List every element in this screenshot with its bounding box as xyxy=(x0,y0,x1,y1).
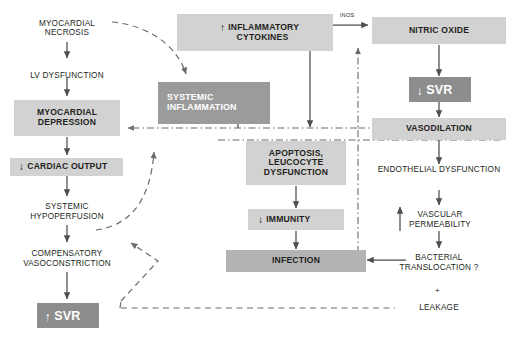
down-arrow-icon: ↓ xyxy=(417,88,426,95)
node-systemic-hypoperfusion: SYSTEMIC HYPOPERFUSION xyxy=(18,198,116,225)
node-label-line2: INFLAMMATION xyxy=(167,102,237,112)
node-vascular-permeability: VASCULAR PERMEABILITY xyxy=(396,206,484,233)
dashed-line-bottom xyxy=(120,301,395,308)
node-label-line2: TRANSLOCATION ? xyxy=(400,263,479,272)
node-label-line3: DYSFUNCTION xyxy=(264,167,328,177)
node-myocardial-necrosis: MYOCARDIAL NECROSIS xyxy=(20,14,114,42)
node-vasodilation: VASODILATION xyxy=(372,118,506,140)
down-arrow-icon: ↓ xyxy=(19,164,27,170)
node-label-line1: NITRIC OXIDE xyxy=(409,26,469,36)
node-label-line2: HYPOPERFUSION xyxy=(30,212,104,221)
up-arrow-icon: ↑ xyxy=(45,314,54,321)
node-label-line2: DEPRESSION xyxy=(38,117,96,127)
node-nitric-oxide: NITRIC OXIDE xyxy=(372,17,506,44)
flowchart-canvas: MYOCARDIAL NECROSIS LV DYSFUNCTION MYOCA… xyxy=(0,0,524,352)
node-label-line2: PERMEABILITY xyxy=(409,220,471,229)
node-label-line1: CARDIAC OUTPUT xyxy=(27,161,107,171)
node-inflammatory-cytokines: ↑INFLAMMATORY CYTOKINES xyxy=(177,14,333,51)
node-label-line1: INFECTION xyxy=(272,256,320,266)
down-arrow-icon: ↓ xyxy=(258,217,266,223)
node-endothelial-dysfunction: ENDOTHELIAL DYSFUNCTION xyxy=(370,164,508,176)
node-infection: INFECTION xyxy=(226,250,366,272)
plus-sign-label: + xyxy=(435,286,440,295)
node-label-line1: LV DYSFUNCTION xyxy=(30,71,104,80)
node-leakage: LEAKAGE xyxy=(409,302,469,314)
node-label-line2: VASOCONSTRICTION xyxy=(23,259,111,268)
edge-label-inos: iNOS xyxy=(340,12,355,18)
node-immunity: ↓IMMUNITY xyxy=(248,209,344,230)
node-label-line2: LEUCOCYTE xyxy=(269,157,324,167)
node-label-line1: SVR xyxy=(426,83,452,97)
node-myocardial-depression: MYOCARDIAL DEPRESSION xyxy=(14,100,120,136)
node-label-line1: SYSTEMIC xyxy=(167,92,214,102)
node-svr-decreased: ↓SVR xyxy=(409,77,471,102)
node-label-line1: INFLAMMATORY xyxy=(228,22,299,32)
node-compensatory-vasoconstriction: COMPENSATORY VASOCONSTRICTION xyxy=(11,245,123,272)
node-label-line1: COMPENSATORY xyxy=(31,249,102,258)
node-lv-dysfunction: LV DYSFUNCTION xyxy=(18,70,116,82)
node-cardiac-output: ↓CARDIAC OUTPUT xyxy=(10,158,123,176)
node-label-line2: NECROSIS xyxy=(45,28,89,37)
node-svr-increased: ↑SVR xyxy=(37,303,99,328)
node-label-line1: APOPTOSIS, xyxy=(269,148,323,158)
node-label-line1: BACTERIAL xyxy=(415,253,462,262)
node-label-line1: ENDOTHELIAL DYSFUNCTION xyxy=(378,165,501,174)
node-label-line1: VASODILATION xyxy=(406,124,472,134)
node-systemic-inflammation: SYSTEMIC INFLAMMATION xyxy=(158,82,270,124)
node-label-line2: CYTOKINES xyxy=(231,32,289,42)
node-label-line1: MYOCARDIAL xyxy=(39,19,95,28)
node-bacterial-translocation: BACTERIAL TRANSLOCATION ? xyxy=(386,249,492,276)
up-arrow-icon: ↑ xyxy=(220,25,228,31)
node-label-line1: IMMUNITY xyxy=(266,214,310,224)
node-apoptosis-leucocyte-dysfunction: APOPTOSIS, LEUCOCYTE DYSFUNCTION xyxy=(246,141,346,185)
node-label-line1: SYSTEMIC xyxy=(45,202,88,211)
node-label-line1: MYOCARDIAL xyxy=(37,107,97,117)
node-label-line1: SVR xyxy=(54,309,80,323)
node-label-line1: VASCULAR xyxy=(417,210,462,219)
node-label-line1: LEAKAGE xyxy=(419,303,459,312)
